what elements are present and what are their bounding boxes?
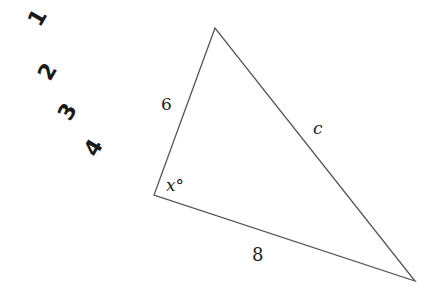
side-label-right: c <box>313 118 323 138</box>
side-label-bottom: 8 <box>252 244 263 265</box>
handwritten-mark-3: 3 <box>53 99 82 125</box>
side-label-left: 6 <box>161 94 172 114</box>
triangle-diagram: 6 c 8 x° 1 2 3 4 <box>0 0 437 288</box>
handwritten-mark-1: 1 <box>23 5 52 31</box>
triangle <box>154 28 415 281</box>
handwritten-mark-2: 2 <box>33 59 62 85</box>
handwritten-marks: 1 2 3 4 <box>23 5 108 161</box>
handwritten-mark-4: 4 <box>79 135 108 161</box>
angle-label: x° <box>166 175 184 195</box>
